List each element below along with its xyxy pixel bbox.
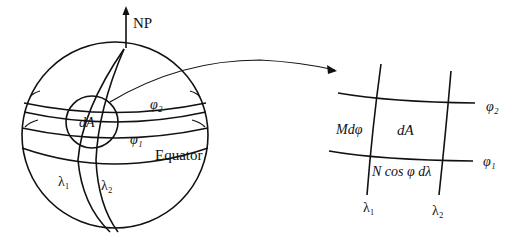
connector-arrow	[110, 60, 335, 102]
parallel-phi2-label-left: φ₂	[150, 97, 163, 112]
parallel-phi2-lower-edge	[24, 112, 206, 122]
meridian-lambda2-label-left: λ₂	[101, 178, 113, 193]
parallel-phi1-label-right: φ₁	[483, 154, 496, 169]
side-length-label: Mdφ	[335, 122, 363, 137]
parallel-back-right-lower	[192, 120, 205, 127]
bottom-length-label: N cos φ dλ	[371, 164, 431, 179]
meridian-lambda1-label-right: λ₁	[363, 200, 375, 215]
area-label-left: dA	[79, 115, 95, 130]
ellipsoid-area-element-diagram: NP dA φ₂ φ₁ Equator λ₁ λ₂ φ₂ φ₁ Mdφ dA N…	[0, 0, 511, 243]
area-label-right: dA	[397, 122, 415, 138]
meridian-lambda1-label-left: λ₁	[58, 174, 70, 189]
enlarged-parallel-phi2	[338, 93, 475, 103]
meridian-lambda1	[78, 49, 124, 232]
parallel-phi2-label-right: φ₂	[486, 99, 499, 114]
north-pole-label: NP	[133, 15, 152, 31]
parallel-phi1-label-left: φ₁	[130, 132, 143, 147]
equator-label: Equator	[155, 147, 202, 163]
enlarged-meridian-lambda2	[439, 71, 451, 195]
meridian-lambda2-label-right: λ₂	[432, 203, 444, 218]
parallel-back-left-lower	[25, 120, 38, 127]
enlarged-parallel-phi1	[329, 151, 473, 161]
connector-arrowhead	[327, 65, 337, 74]
